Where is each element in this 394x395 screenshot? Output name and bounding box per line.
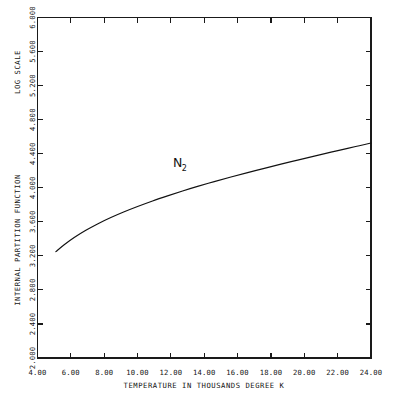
x-tick-label: 16.00 — [226, 368, 249, 377]
x-tick-label: 20.00 — [293, 368, 316, 377]
y-tick-label: 5.600 — [28, 40, 37, 63]
y-axis-ticks — [38, 18, 372, 359]
y-tick-label: 2.800 — [28, 279, 37, 302]
y-tick-label: 2.400 — [28, 313, 37, 336]
series-label-subscript: 2 — [182, 164, 187, 173]
x-axis-ticks — [38, 18, 372, 359]
y-axis-tick-labels: 2.0002.4002.8003.2003.6004.0004.4004.800… — [28, 6, 37, 369]
x-axis-tick-labels: 4.006.008.0010.0012.0014.0016.0018.0020.… — [28, 368, 382, 377]
y-tick-label: 5.200 — [28, 74, 37, 97]
x-axis-title: TEMPERATURE IN THOUSANDS DEGREE K — [124, 381, 285, 390]
y-axis-title-group: INTERNAL PARTITION FUNCTION LOG SCALE — [13, 50, 22, 306]
y-tick-label: 4.800 — [28, 108, 37, 131]
y-tick-label: 4.400 — [28, 142, 37, 165]
y-tick-label: 4.000 — [28, 176, 37, 199]
x-tick-label: 12.00 — [160, 368, 183, 377]
series-n2 — [56, 143, 371, 252]
x-tick-label: 18.00 — [260, 368, 283, 377]
y-tick-label: 6.000 — [28, 6, 37, 29]
series-annotation-n2: N2 — [173, 155, 187, 172]
y-axis-title-secondary: LOG SCALE — [13, 50, 22, 94]
plot-area: 2.0002.4002.8003.2003.6004.0004.4004.800… — [0, 0, 394, 395]
y-tick-label: 2.000 — [28, 347, 37, 370]
x-tick-label: 22.00 — [326, 368, 349, 377]
y-axis-title: INTERNAL PARTITION FUNCTION — [13, 174, 22, 306]
x-tick-label: 14.00 — [193, 368, 216, 377]
y-tick-label: 3.200 — [28, 245, 37, 268]
axis-frame — [38, 18, 372, 359]
x-tick-label: 8.00 — [95, 368, 113, 377]
x-tick-label: 4.00 — [28, 368, 46, 377]
x-tick-label: 6.00 — [62, 368, 80, 377]
chart-figure: 2.0002.4002.8003.2003.6004.0004.4004.800… — [0, 0, 394, 395]
x-tick-label: 24.00 — [360, 368, 383, 377]
x-tick-label: 10.00 — [126, 368, 149, 377]
y-tick-label: 3.600 — [28, 210, 37, 233]
